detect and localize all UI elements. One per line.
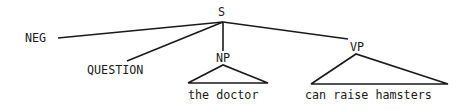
node-np: NP — [216, 51, 230, 65]
edge-s-question — [127, 22, 223, 61]
edge-s-neg — [58, 22, 223, 38]
node-s: S — [218, 5, 225, 19]
vp-terminal-text: can raise hamsters — [305, 88, 432, 102]
node-neg: NEG — [25, 31, 46, 45]
node-question: QUESTION — [87, 63, 143, 77]
edge-s-vp — [223, 22, 348, 39]
np-triangle — [188, 65, 268, 83]
vp-triangle — [311, 54, 448, 84]
node-vp: VP — [350, 40, 364, 54]
np-terminal-text: the doctor — [188, 88, 258, 102]
